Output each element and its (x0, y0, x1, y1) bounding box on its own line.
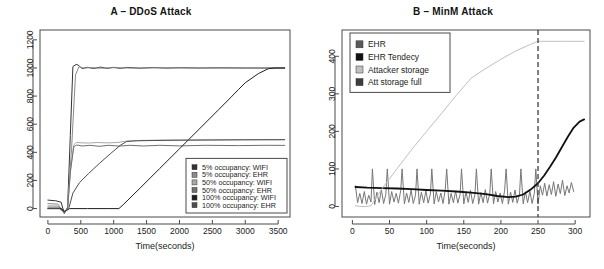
y-tick-label: 400 (25, 145, 35, 159)
x-tick-label: 100 (420, 226, 434, 236)
y-tick-label: 0 (25, 206, 35, 211)
panel-a-plot: 0200400600800100012000500100015002000250… (0, 0, 302, 269)
panel-a: A – DDoS Attack 020040060080010001200050… (0, 0, 302, 269)
x-axis-title: Time(seconds) (436, 241, 495, 251)
series-ehr (355, 169, 573, 205)
y-tick-label: 800 (25, 89, 35, 103)
x-tick-label: 50 (385, 226, 395, 236)
x-tick-label: 300 (568, 226, 582, 236)
legend-swatch (356, 41, 363, 48)
y-tick-label: 1200 (25, 30, 35, 49)
y-tick-label: 200 (25, 173, 35, 187)
legend-swatch (192, 180, 197, 185)
legend-label: EHR (368, 39, 386, 49)
legend: EHREHR TendecyAttacker storageAtt storag… (350, 33, 450, 92)
legend-swatch (192, 165, 197, 170)
legend-swatch (356, 53, 363, 60)
y-tick-label: 600 (25, 117, 35, 131)
legend-swatch (192, 203, 197, 208)
x-tick-label: 200 (494, 226, 508, 236)
y-axis: 020040060080010001200 (25, 30, 37, 211)
panel-b: B – MinM Attack 010020030040005010015020… (302, 0, 604, 269)
x-axis-title: Time(seconds) (135, 241, 194, 251)
x-tick-label: 0 (350, 226, 355, 236)
legend-label: EHR Tendecy (368, 52, 420, 62)
x-tick-label: 1500 (137, 226, 156, 236)
x-tick-label: 500 (74, 226, 88, 236)
legend-label: 100% occupancy: EHR (202, 201, 276, 210)
x-tick-label: 3500 (269, 226, 288, 236)
y-tick-label: 400 (327, 49, 337, 63)
legend-swatch (192, 195, 197, 200)
legend-swatch (192, 172, 197, 177)
legend-label: Att storage full (368, 77, 422, 87)
y-tick-label: 200 (327, 124, 337, 138)
legend: 5% occupancy: WIFI5% occupancy: EHR50% o… (186, 158, 287, 213)
x-tick-label: 150 (457, 226, 471, 236)
panel-b-plot: 0100200300400050100150200250300Time(seco… (302, 0, 604, 269)
y-tick-label: 300 (327, 86, 337, 100)
x-tick-label: 250 (531, 226, 545, 236)
x-tick-label: 0 (46, 226, 51, 236)
x-axis: 0500100015002000250030003500 (46, 220, 288, 236)
x-tick-label: 3000 (236, 226, 255, 236)
x-tick-label: 2500 (203, 226, 222, 236)
y-axis: 0100200300400 (327, 49, 339, 209)
y-tick-label: 100 (327, 162, 337, 176)
y-tick-label: 0 (327, 204, 337, 209)
x-tick-label: 2000 (170, 226, 189, 236)
legend-swatch (192, 188, 197, 193)
x-axis: 050100150200250300 (350, 220, 582, 236)
y-tick-label: 1000 (25, 58, 35, 77)
legend-swatch (356, 66, 363, 73)
legend-swatch (356, 79, 363, 86)
x-tick-label: 1000 (104, 226, 123, 236)
legend-label: Attacker storage (368, 65, 429, 75)
figure-container: A – DDoS Attack 020040060080010001200050… (0, 0, 604, 269)
